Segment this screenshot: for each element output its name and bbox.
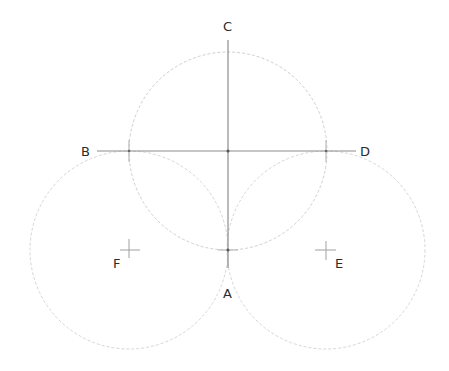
label-f: F bbox=[113, 257, 120, 270]
label-b: B bbox=[81, 145, 90, 158]
point-b bbox=[128, 150, 131, 153]
label-d: D bbox=[360, 145, 370, 158]
label-a: A bbox=[223, 287, 232, 300]
label-e: E bbox=[335, 257, 343, 270]
cross-e bbox=[315, 241, 336, 260]
point-d bbox=[325, 150, 328, 153]
construction-canvas bbox=[0, 0, 449, 371]
cross-f bbox=[120, 239, 140, 258]
point-a bbox=[227, 249, 230, 252]
label-c: C bbox=[223, 20, 232, 33]
point-center bbox=[227, 150, 230, 153]
